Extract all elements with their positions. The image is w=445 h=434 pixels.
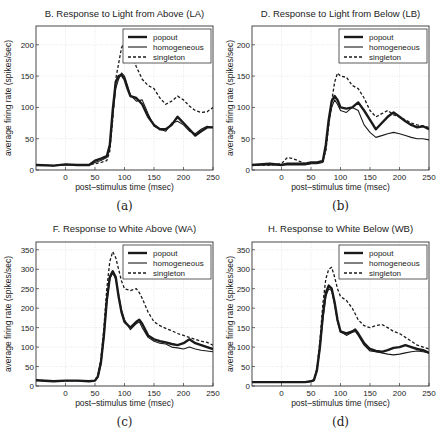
legend: popouthomogeneoussingleton bbox=[339, 29, 427, 63]
svg-text:250: 250 bbox=[206, 173, 220, 182]
panel-d: H. Response to White Below (WB)050100150… bbox=[222, 215, 445, 434]
svg-text:150: 150 bbox=[363, 173, 377, 182]
legend: popouthomogeneoussingleton bbox=[123, 29, 211, 63]
y-axis-label: average firing rate (spikes/sec) bbox=[225, 40, 235, 156]
svg-text:150: 150 bbox=[363, 389, 377, 398]
svg-text:150: 150 bbox=[237, 72, 251, 81]
svg-text:100: 100 bbox=[237, 103, 251, 112]
svg-text:100: 100 bbox=[334, 173, 348, 182]
legend: popouthomogeneoussingleton bbox=[123, 245, 211, 279]
svg-text:0: 0 bbox=[246, 382, 251, 391]
svg-text:350: 350 bbox=[21, 246, 35, 255]
svg-text:100: 100 bbox=[334, 389, 348, 398]
legend-label-singleton: singleton bbox=[369, 53, 401, 62]
svg-text:0: 0 bbox=[246, 166, 251, 175]
series-popout bbox=[252, 96, 429, 165]
chart-a: B. Response to Light from Above (LA)0501… bbox=[0, 0, 225, 215]
svg-text:150: 150 bbox=[147, 173, 161, 182]
chart-b: D. Response to Light from Below (LB)0501… bbox=[222, 0, 445, 215]
svg-text:100: 100 bbox=[118, 389, 132, 398]
chart-title: B. Response to Light from Above (LA) bbox=[45, 8, 204, 19]
svg-text:250: 250 bbox=[21, 285, 35, 294]
chart-title: H. Response to White Below (WB) bbox=[268, 223, 413, 234]
svg-text:0: 0 bbox=[279, 173, 284, 182]
svg-text:100: 100 bbox=[21, 103, 35, 112]
y-axis-label: average firing rate (spikes/sec) bbox=[3, 256, 13, 372]
chart-c: F. Response to White Above (WA)050100150… bbox=[0, 215, 225, 434]
x-axis-ticks: 050100150200250 bbox=[63, 167, 220, 182]
svg-text:50: 50 bbox=[25, 363, 34, 372]
svg-text:50: 50 bbox=[307, 173, 316, 182]
legend-label-homogeneous: homogeneous bbox=[153, 259, 204, 268]
legend: popouthomogeneoussingleton bbox=[339, 245, 427, 279]
svg-text:100: 100 bbox=[237, 343, 251, 352]
y-axis-label: average firing rate (spikes/sec) bbox=[3, 40, 13, 156]
svg-text:200: 200 bbox=[237, 41, 251, 50]
chart-title: D. Response to Light from Below (LB) bbox=[261, 8, 420, 19]
svg-text:250: 250 bbox=[422, 173, 436, 182]
series-homogeneous bbox=[252, 100, 429, 165]
legend-label-singleton: singleton bbox=[153, 269, 185, 278]
legend-label-popout: popout bbox=[369, 249, 394, 258]
svg-text:0: 0 bbox=[30, 382, 35, 391]
svg-text:200: 200 bbox=[237, 304, 251, 313]
panel-caption: (a) bbox=[116, 199, 133, 213]
svg-text:250: 250 bbox=[206, 389, 220, 398]
x-axis-label: post–stimulus time (msec) bbox=[75, 398, 174, 408]
svg-text:200: 200 bbox=[177, 173, 191, 182]
y-axis-label: average firing rate (spikes/sec) bbox=[225, 256, 235, 372]
panel-c: F. Response to White Above (WA)050100150… bbox=[0, 215, 225, 434]
legend-label-popout: popout bbox=[153, 33, 178, 42]
svg-text:100: 100 bbox=[118, 173, 132, 182]
x-axis-ticks: 050100150200250 bbox=[279, 383, 436, 398]
svg-text:150: 150 bbox=[21, 72, 35, 81]
x-axis-ticks: 050100150200250 bbox=[279, 167, 436, 182]
chart-title: F. Response to White Above (WA) bbox=[53, 223, 196, 234]
svg-text:0: 0 bbox=[30, 166, 35, 175]
svg-text:100: 100 bbox=[21, 343, 35, 352]
svg-text:200: 200 bbox=[393, 389, 407, 398]
svg-text:50: 50 bbox=[307, 389, 316, 398]
svg-text:200: 200 bbox=[21, 41, 35, 50]
svg-text:150: 150 bbox=[21, 324, 35, 333]
svg-text:50: 50 bbox=[25, 135, 34, 144]
panel-caption: (b) bbox=[332, 199, 349, 213]
svg-text:50: 50 bbox=[91, 173, 100, 182]
x-axis-label: post–stimulus time (msec) bbox=[291, 182, 390, 192]
svg-text:300: 300 bbox=[21, 265, 35, 274]
chart-d: H. Response to White Below (WB)050100150… bbox=[222, 215, 445, 434]
x-axis-label: post–stimulus time (msec) bbox=[75, 182, 174, 192]
x-axis-ticks: 050100150200250 bbox=[63, 383, 220, 398]
legend-label-homogeneous: homogeneous bbox=[369, 259, 420, 268]
panel-b: D. Response to Light from Below (LB)0501… bbox=[222, 0, 445, 215]
svg-text:0: 0 bbox=[63, 173, 68, 182]
svg-text:200: 200 bbox=[393, 173, 407, 182]
svg-text:200: 200 bbox=[21, 304, 35, 313]
legend-label-homogeneous: homogeneous bbox=[369, 43, 420, 52]
svg-text:50: 50 bbox=[241, 363, 250, 372]
svg-text:150: 150 bbox=[237, 324, 251, 333]
legend-label-singleton: singleton bbox=[369, 269, 401, 278]
svg-text:0: 0 bbox=[63, 389, 68, 398]
panel-a: B. Response to Light from Above (LA)0501… bbox=[0, 0, 225, 215]
svg-text:250: 250 bbox=[422, 389, 436, 398]
svg-text:0: 0 bbox=[279, 389, 284, 398]
legend-label-popout: popout bbox=[369, 33, 394, 42]
legend-label-popout: popout bbox=[153, 249, 178, 258]
panel-caption: (d) bbox=[332, 415, 349, 429]
svg-text:50: 50 bbox=[91, 389, 100, 398]
svg-text:300: 300 bbox=[237, 265, 251, 274]
svg-text:50: 50 bbox=[241, 135, 250, 144]
svg-text:150: 150 bbox=[147, 389, 161, 398]
legend-label-singleton: singleton bbox=[153, 53, 185, 62]
x-axis-label: post–stimulus time (msec) bbox=[291, 398, 390, 408]
svg-text:350: 350 bbox=[237, 246, 251, 255]
svg-text:200: 200 bbox=[177, 389, 191, 398]
svg-text:250: 250 bbox=[237, 285, 251, 294]
panel-caption: (c) bbox=[116, 415, 132, 429]
legend-label-homogeneous: homogeneous bbox=[153, 43, 204, 52]
